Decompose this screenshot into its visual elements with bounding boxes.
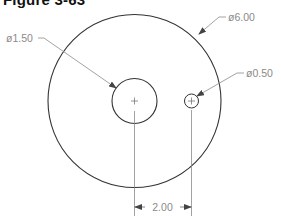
center-mark-small bbox=[188, 98, 195, 105]
dimension-label-2-00: 2.00 bbox=[152, 201, 173, 213]
center-mark-medium bbox=[131, 98, 138, 105]
leader-dia-6-00: ø6.00 bbox=[199, 11, 255, 34]
dimension-2-00: 2.00 bbox=[135, 201, 191, 213]
dia-label-0-50: ø0.50 bbox=[246, 67, 273, 79]
dia-label-6-00: ø6.00 bbox=[228, 11, 255, 23]
technical-drawing: 2.00 ø1.50 ø6.00 ø0.50 bbox=[0, 0, 281, 216]
leader-dia-0-50: ø0.50 bbox=[197, 67, 273, 96]
dia-label-1-50: ø1.50 bbox=[6, 32, 33, 44]
leader-dia-1-50: ø1.50 bbox=[6, 32, 116, 88]
